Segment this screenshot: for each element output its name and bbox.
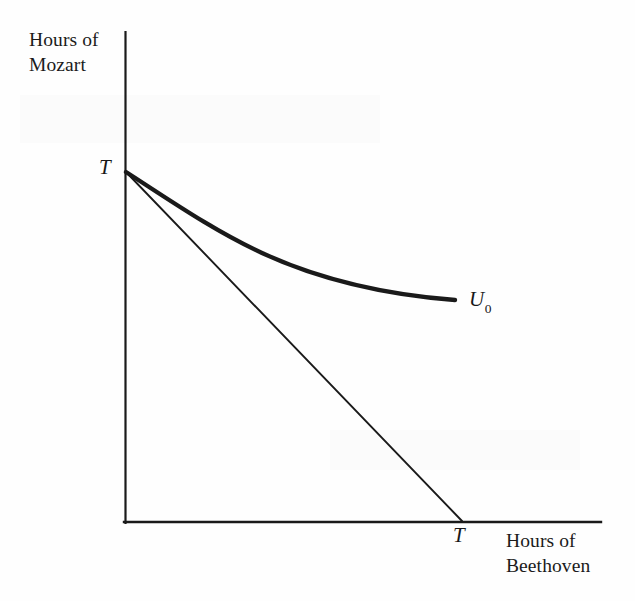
x-intercept-label-T: T (453, 525, 465, 546)
indifference-curve-u0 (126, 172, 455, 300)
curve-label-subscript: 0 (485, 301, 492, 316)
curve-label-u0: U0 (469, 289, 491, 317)
y-intercept-label-T: T (99, 157, 111, 178)
curve-label-base: U (469, 287, 484, 311)
budget-constraint-line (126, 172, 462, 521)
indifference-curve-figure: Hours of Mozart Hours of Beethoven T T U… (0, 0, 635, 601)
x-axis-title: Hours of Beethoven (506, 528, 590, 578)
plot-canvas (0, 0, 635, 601)
y-axis-title: Hours of Mozart (29, 27, 99, 77)
